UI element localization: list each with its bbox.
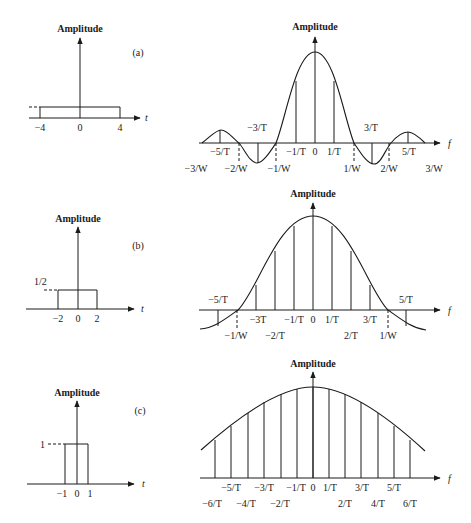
- freq-label: 0: [313, 146, 318, 157]
- freq-label: −2/T: [265, 330, 285, 341]
- panel-tag: (c): [134, 405, 145, 417]
- freq-label: 2/T: [338, 498, 352, 509]
- freq-label: 4/T: [371, 498, 385, 509]
- freq-label: −5/T: [210, 146, 230, 157]
- freq-label: 1/W: [379, 330, 397, 341]
- freq-label: 3/T: [355, 482, 369, 493]
- freq-label: −3/T: [247, 122, 267, 133]
- freq-label: −2/W: [225, 163, 248, 174]
- panel-b-time-domain: Amplitude t 1/2 −2 0 2 (b): [26, 213, 144, 324]
- f-axis-label: f: [448, 305, 452, 316]
- freq-label: −5/T: [221, 482, 241, 493]
- freq-label: 1/T: [327, 146, 341, 157]
- freq-label: 2/W: [380, 163, 398, 174]
- y-axis-label: Amplitude: [292, 21, 338, 32]
- tick-label: −1: [57, 488, 68, 499]
- freq-label: −3T: [250, 314, 267, 325]
- tick-label: −2: [53, 313, 64, 324]
- freq-label: 1/W: [343, 163, 361, 174]
- freq-label: −3/W: [185, 163, 208, 174]
- freq-label: 0: [311, 482, 316, 493]
- height-label: 1/2: [34, 276, 47, 287]
- freq-label: −5/T: [208, 294, 228, 305]
- freq-label: −1/W: [268, 163, 291, 174]
- freq-label: 5/T: [387, 482, 401, 493]
- freq-label: −2/T: [270, 498, 290, 509]
- panel-b-frequency-domain: Amplitude f −5/T 5/T −3T −1/T 0 1/T 3/T …: [199, 188, 452, 341]
- freq-label: 1/T: [325, 314, 339, 325]
- tick-label: 1: [88, 488, 93, 499]
- x-axis-label: t: [141, 303, 144, 314]
- freq-label: 0: [311, 314, 316, 325]
- x-axis-label: t: [142, 478, 145, 489]
- height-label: 1: [40, 439, 45, 450]
- freq-label: 1/T: [323, 482, 337, 493]
- freq-label: 3/T: [364, 122, 378, 133]
- y-axis-label: Amplitude: [290, 188, 336, 199]
- x-axis-label: t: [145, 112, 148, 123]
- f-axis-label: f: [448, 138, 452, 149]
- tick-label: 4: [118, 122, 123, 133]
- tick-label: −4: [35, 122, 46, 133]
- panel-c-time-domain: Amplitude t 1 −1 0 1 (c): [27, 387, 146, 499]
- panel-tag: (b): [132, 240, 144, 252]
- panel-c-frequency-domain: Amplitude f −5/T −3/T −1/T 0 1/T 3/T 5/T…: [200, 358, 452, 509]
- freq-label: 2/T: [344, 330, 358, 341]
- y-axis-label: Amplitude: [290, 358, 336, 369]
- freq-label: −3/T: [254, 482, 274, 493]
- freq-label: −6/T: [202, 498, 222, 509]
- y-axis-label: Amplitude: [55, 213, 101, 224]
- freq-label: −4/T: [236, 498, 256, 509]
- freq-label: −1/W: [225, 330, 248, 341]
- tick-label: 0: [76, 313, 81, 324]
- panel-a-frequency-domain: Amplitude f −3/T 3/T −5/T −1/T 0 1/T 5/T…: [185, 21, 452, 174]
- freq-label: −1/T: [286, 482, 306, 493]
- diagram-canvas: Amplitude t −4 0 4 (a) Amplitude f −3/T …: [0, 0, 471, 523]
- freq-label: 3/T: [363, 314, 377, 325]
- y-axis-label: Amplitude: [54, 387, 100, 398]
- y-axis-label: Amplitude: [57, 23, 103, 34]
- freq-label: −1/T: [286, 146, 306, 157]
- freq-label: 6/T: [403, 498, 417, 509]
- tick-label: 2: [95, 313, 100, 324]
- tick-label: 0: [75, 488, 80, 499]
- tick-label: 0: [78, 122, 83, 133]
- panel-a-time-domain: Amplitude t −4 0 4 (a): [29, 23, 148, 133]
- panel-tag: (a): [132, 47, 143, 59]
- freq-label: 5/T: [399, 294, 413, 305]
- freq-label: −1/T: [284, 314, 304, 325]
- f-axis-label: f: [448, 473, 452, 484]
- freq-label: 5/T: [402, 146, 416, 157]
- freq-label: 3/W: [425, 163, 443, 174]
